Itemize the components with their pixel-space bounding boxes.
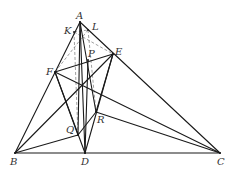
label-P: P — [87, 48, 95, 59]
segment-RC — [96, 112, 220, 153]
label-R: R — [96, 114, 105, 125]
segment-CF — [55, 72, 220, 153]
label-B: B — [9, 156, 17, 167]
point-D — [84, 152, 86, 154]
point-A — [79, 21, 81, 23]
solid-lines — [14, 21, 221, 154]
point-Q — [77, 134, 79, 136]
label-E: E — [114, 46, 123, 57]
point-C — [219, 152, 221, 154]
segment-PD — [85, 60, 88, 153]
point-K — [73, 31, 75, 33]
point-F — [54, 71, 56, 73]
label-C: C — [217, 156, 225, 167]
geometry-diagram: A B C D E F K L P Q R — [0, 0, 237, 177]
segment-AD — [80, 22, 85, 153]
label-L: L — [91, 21, 99, 32]
point-R — [95, 111, 97, 113]
point-P — [87, 59, 89, 61]
label-Q: Q — [66, 124, 74, 135]
segment-AC — [80, 22, 220, 153]
label-A: A — [75, 10, 83, 21]
point-L — [87, 29, 89, 31]
point-B — [14, 152, 16, 154]
label-D: D — [80, 156, 89, 167]
label-F: F — [45, 66, 54, 77]
label-K: K — [63, 25, 72, 36]
segment-AQ — [78, 22, 80, 135]
point-E — [112, 53, 114, 55]
